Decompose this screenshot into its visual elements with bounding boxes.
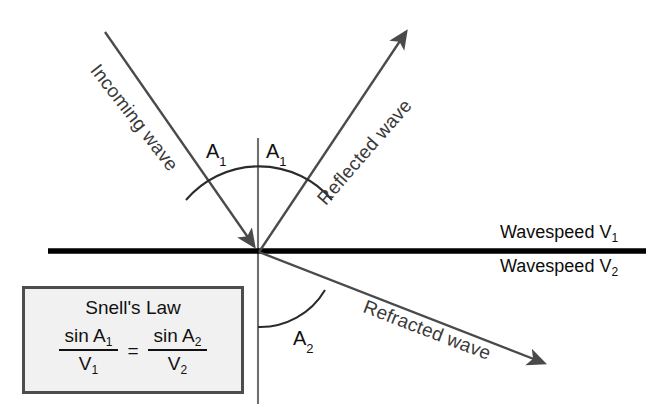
wavespeed-lower-text: Wavespeed V [500,256,611,276]
snells-law-box: Snell's Law sin A1 V1 = sin A2 V2 [22,286,244,394]
left-denominator-text: V [79,353,92,374]
snells-law-equation: sin A1 V1 = sin A2 V2 [59,325,208,375]
angle-refraction-base: A [293,327,306,349]
left-numerator-text: sin A [65,325,106,346]
wavespeed-lower-label: Wavespeed V2 [500,256,618,277]
equals-sign: = [127,338,138,362]
angle-reflection-base: A [266,140,279,162]
angle-refraction-sub: 2 [306,341,313,356]
wavespeed-lower-sub: 2 [611,265,618,279]
incoming-wave-ray [105,32,254,246]
right-denominator-sub: 2 [180,363,187,377]
snells-law-title: Snell's Law [85,298,181,317]
snells-law-left-fraction: sin A1 V1 [59,325,119,375]
wavespeed-upper-text: Wavespeed V [500,222,611,242]
angle-incidence-sub: 1 [219,154,226,169]
left-denominator: V1 [59,349,119,375]
angle-reflection-label: A1 [266,140,287,166]
snells-law-diagram: Incoming wave Reflected wave Refracted w… [0,0,655,412]
right-denominator-text: V [168,353,181,374]
angle-arc-lower [258,290,325,327]
angle-refraction-label: A2 [293,327,314,353]
wavespeed-upper-label: Wavespeed V1 [500,222,618,243]
angle-reflection-sub: 1 [279,154,286,169]
left-denominator-sub: 1 [91,363,98,377]
left-numerator-sub: 1 [106,335,113,349]
angle-incidence-base: A [206,140,219,162]
angle-incidence-label: A1 [206,140,227,166]
right-numerator: sin A2 [148,325,208,349]
left-numerator: sin A1 [59,325,119,349]
right-numerator-text: sin A [154,325,195,346]
right-numerator-sub: 2 [195,335,202,349]
snells-law-right-fraction: sin A2 V2 [148,325,208,375]
right-denominator: V2 [148,349,208,375]
wavespeed-upper-sub: 1 [611,231,618,245]
